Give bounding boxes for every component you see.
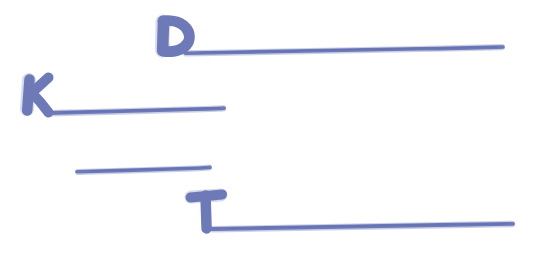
sketch-canvas: D K T Handwritten blue marker letters wi… bbox=[0, 0, 535, 266]
letter-d-counter bbox=[169, 29, 181, 44]
marker-sketch-svg bbox=[0, 0, 535, 266]
letter-d-glyph bbox=[163, 21, 190, 52]
underline-group-d bbox=[186, 47, 504, 54]
letter-t-glyph bbox=[191, 194, 223, 228]
letter-k-glyph bbox=[27, 78, 49, 113]
underline-group-unlabeled bbox=[77, 167, 210, 172]
underline-group-k bbox=[48, 108, 224, 113]
letter-t-stem bbox=[206, 196, 207, 229]
underline-group-t bbox=[212, 224, 513, 230]
